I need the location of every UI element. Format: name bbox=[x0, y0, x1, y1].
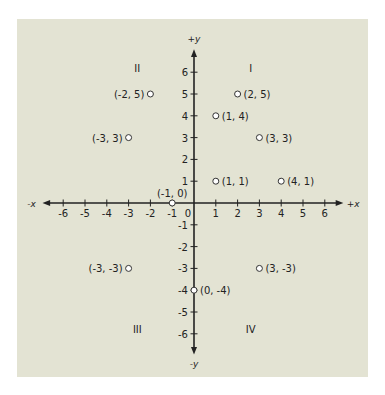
x-tick-label: -2 bbox=[145, 208, 155, 219]
quadrant-label: III bbox=[133, 324, 142, 335]
x-tick-label: 6 bbox=[322, 208, 328, 219]
y-tick-label: 5 bbox=[182, 89, 188, 100]
x-tick-label: 2 bbox=[234, 208, 240, 219]
quadrant-label: IV bbox=[246, 324, 256, 335]
point-label: (-1, 0) bbox=[157, 188, 188, 199]
point-label: (-2, 5) bbox=[114, 89, 145, 100]
y-tick-label: -3 bbox=[178, 263, 188, 274]
point-label: (0, -4) bbox=[200, 285, 231, 296]
x-axis-positive-label: +x bbox=[347, 199, 361, 209]
y-tick-label: -1 bbox=[178, 220, 188, 231]
point-label: (1, 1) bbox=[222, 176, 249, 187]
data-point bbox=[191, 287, 197, 293]
x-axis-negative-label: -x bbox=[27, 199, 36, 209]
data-point bbox=[147, 91, 153, 97]
y-tick-label: 3 bbox=[182, 133, 188, 144]
y-tick-label: 1 bbox=[182, 176, 188, 187]
data-point bbox=[126, 135, 132, 141]
data-point bbox=[278, 178, 284, 184]
x-tick-label: -3 bbox=[124, 208, 134, 219]
point-label: (4, 1) bbox=[287, 176, 314, 187]
data-point bbox=[235, 91, 241, 97]
y-tick-label: -6 bbox=[178, 329, 188, 340]
data-point bbox=[256, 265, 262, 271]
point-label: (2, 5) bbox=[244, 89, 271, 100]
y-axis-positive-label: +y bbox=[188, 34, 202, 44]
data-point bbox=[213, 113, 219, 119]
coordinate-plane: +x-x+y-y-6-5-4-3-2-10123456654321-1-2-3-… bbox=[0, 0, 385, 395]
y-axis-negative-arrow-icon bbox=[191, 347, 197, 355]
x-tick-label: 1 bbox=[213, 208, 219, 219]
y-axis-positive-arrow-icon bbox=[191, 49, 197, 57]
quadrant-label: I bbox=[249, 63, 252, 74]
data-point bbox=[256, 135, 262, 141]
x-tick-label: 5 bbox=[300, 208, 306, 219]
y-tick-label: -5 bbox=[178, 307, 188, 318]
point-label: (-3, 3) bbox=[92, 133, 123, 144]
x-axis-negative-arrow-icon bbox=[42, 200, 50, 206]
x-tick-label: -5 bbox=[80, 208, 90, 219]
data-point bbox=[169, 200, 175, 206]
y-tick-label: -4 bbox=[178, 285, 188, 296]
point-label: (1, 4) bbox=[222, 111, 249, 122]
x-tick-label: -4 bbox=[102, 208, 112, 219]
y-tick-label: -2 bbox=[178, 242, 188, 253]
y-tick-label: 2 bbox=[182, 154, 188, 165]
y-tick-label: 4 bbox=[182, 111, 188, 122]
point-label: (-3, -3) bbox=[88, 263, 122, 274]
y-tick-label: 6 bbox=[182, 67, 188, 78]
x-tick-label: -1 bbox=[167, 208, 177, 219]
x-axis-positive-arrow-icon bbox=[336, 200, 344, 206]
quadrant-label: II bbox=[134, 63, 140, 74]
point-label: (3, 3) bbox=[265, 133, 292, 144]
x-tick-label: 0 bbox=[185, 208, 191, 219]
x-tick-label: 3 bbox=[256, 208, 262, 219]
x-tick-label: 4 bbox=[278, 208, 284, 219]
data-point bbox=[213, 178, 219, 184]
point-label: (3, -3) bbox=[265, 263, 296, 274]
y-axis-negative-label: -y bbox=[190, 359, 199, 369]
data-point bbox=[126, 265, 132, 271]
x-tick-label: -6 bbox=[58, 208, 68, 219]
